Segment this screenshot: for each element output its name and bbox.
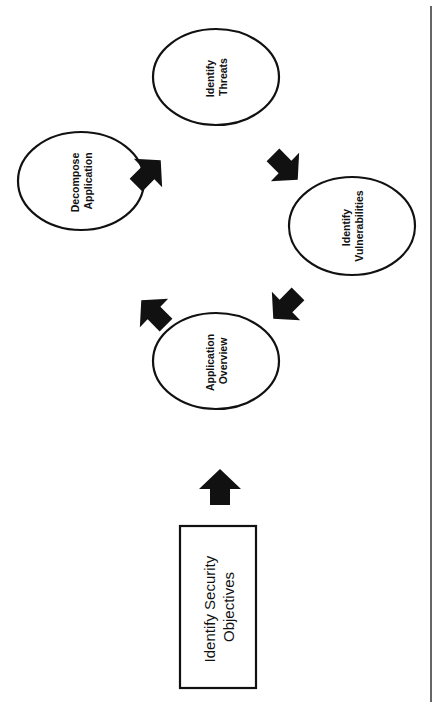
- svg-text:Decompose Application: Decompose Application: [69, 150, 94, 212]
- node-label-line2: Application: [82, 152, 94, 209]
- node-application-overview: Application Overview: [153, 313, 279, 409]
- node-label-line2: Overview: [217, 337, 229, 385]
- threat-modeling-diagram: Identify Threats Decompose Application I…: [0, 0, 441, 706]
- node-label-line2: Threats: [217, 58, 229, 96]
- start-box-label-line1: Identify Security: [201, 555, 218, 662]
- svg-text:Application Overview: Application Overview: [204, 331, 229, 391]
- start-box-label-line2: Objectives: [220, 572, 237, 642]
- node-label-line1: Application: [204, 334, 216, 391]
- node-decompose-application: Decompose Application: [18, 132, 144, 230]
- node-label-line1: Identify: [204, 60, 216, 97]
- node-identify-vulnerabilities: Identify Vulnerabilities: [289, 177, 415, 275]
- arrow-up-icon: [199, 469, 241, 505]
- arrow-down-right-icon: [259, 141, 312, 194]
- start-box-identify-security-objectives: Identify Security Objectives: [180, 526, 256, 688]
- node-label-line2: Vulnerabilities: [353, 190, 365, 262]
- node-label-line1: Identify: [340, 209, 352, 246]
- node-identify-threats: Identify Threats: [153, 29, 279, 125]
- node-label-line1: Decompose: [69, 153, 81, 213]
- arrow-down-left-icon: [259, 280, 312, 333]
- svg-text:Identify Threats: Identify Threats: [204, 57, 229, 97]
